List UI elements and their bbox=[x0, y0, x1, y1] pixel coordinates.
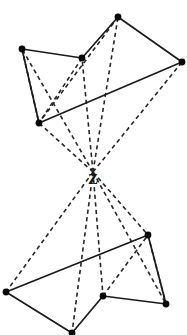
upper-vertex-u3 bbox=[115, 14, 122, 21]
upper-polygon-vertices bbox=[19, 14, 186, 127]
lower-vertex-l3 bbox=[100, 293, 107, 300]
lower-vertex-l4 bbox=[163, 301, 170, 308]
upper-edge-u3-u4 bbox=[118, 17, 182, 62]
projection-diagram-svg: Z bbox=[0, 0, 187, 335]
upper-dashed-edge-u3-u5 bbox=[39, 17, 118, 123]
upper-edge-u1-u2 bbox=[22, 49, 82, 58]
diagram-canvas: Z bbox=[0, 0, 187, 335]
ray-z-to-u1 bbox=[22, 49, 93, 172]
projection-rays-upper-group bbox=[22, 17, 182, 172]
lower-edge-l1-l2 bbox=[6, 292, 72, 333]
lower-edge-l3-l4 bbox=[103, 296, 166, 304]
upper-vertex-u4 bbox=[179, 59, 186, 66]
ray-z-to-u2 bbox=[82, 58, 93, 172]
projection-rays-lower-group bbox=[6, 172, 166, 333]
lower-vertex-l1 bbox=[3, 289, 10, 296]
upper-edge-u5-u1 bbox=[22, 49, 39, 123]
upper-vertex-u1 bbox=[19, 46, 26, 53]
ray-z-to-u4 bbox=[93, 62, 182, 172]
upper-vertex-u5 bbox=[36, 120, 43, 127]
upper-polygon-solid-edges bbox=[22, 17, 182, 123]
upper-vertex-u2 bbox=[79, 55, 86, 62]
ray-z-to-l2 bbox=[72, 172, 93, 333]
ray-z-to-l4 bbox=[93, 172, 166, 304]
projection-center-z-label: Z bbox=[88, 171, 98, 187]
lower-edge-l5-l4 bbox=[148, 235, 166, 304]
ray-z-to-l3 bbox=[93, 172, 103, 296]
ray-z-to-l5 bbox=[93, 172, 148, 235]
upper-edge-u4-u5 bbox=[39, 62, 182, 123]
ray-z-to-u5 bbox=[39, 123, 93, 172]
lower-polygon-solid-edges bbox=[6, 235, 166, 333]
lower-vertex-l5 bbox=[145, 232, 152, 239]
